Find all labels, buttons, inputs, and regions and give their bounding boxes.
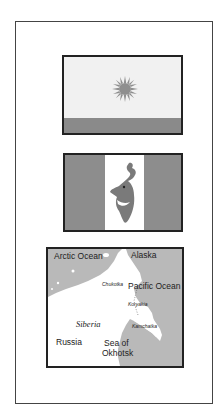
flag-band: [64, 118, 181, 133]
label-pacific-ocean: Pacific Ocean: [128, 282, 180, 291]
region-map: Arctic Ocean Alaska Chukotka Pacific Oce…: [46, 247, 184, 368]
reindeer-head-icon: [109, 161, 143, 225]
label-chukotka: Chukotka: [102, 282, 123, 287]
koryakia-flag: [63, 153, 183, 232]
label-sea-of: Sea of: [104, 339, 129, 348]
sun-icon: [112, 76, 138, 102]
label-okhotsk: Okhotsk: [102, 349, 133, 358]
label-alaska: Alaska: [131, 251, 157, 260]
label-russia: Russia: [56, 338, 82, 347]
label-koryakia: Koryakia: [128, 302, 147, 307]
label-arctic-ocean: Arctic Ocean: [54, 252, 103, 261]
chukotka-flag: [62, 55, 183, 135]
label-siberia: Siberia: [76, 320, 101, 329]
label-kamchatka: Kamchatka: [132, 324, 157, 329]
